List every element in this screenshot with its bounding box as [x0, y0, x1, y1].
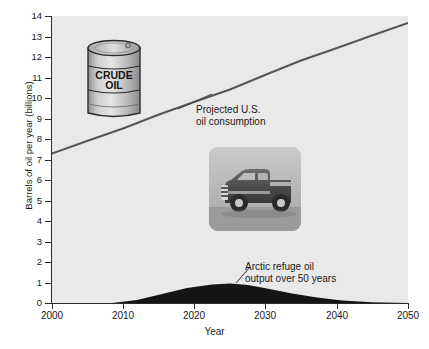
x-tick-2000: [52, 304, 53, 309]
consumption-annotation: Projected U.S. oil consumption: [196, 104, 265, 128]
x-tick-label-2000: 2000: [29, 311, 75, 321]
y-tick-0: [45, 303, 51, 304]
y-tick-2: [45, 262, 51, 263]
y-axis-title-wrap: Barrels of oil per year (billions): [0, 0, 18, 330]
x-axis-line: [51, 303, 409, 304]
y-tick-1: [45, 283, 51, 284]
plot-area: CRUDE OIL: [52, 16, 408, 303]
y-tick-14: [45, 16, 51, 17]
pickup-truck-icon: [209, 147, 301, 231]
y-tick-6: [45, 180, 51, 181]
consumption-annotation-line2: oil consumption: [196, 116, 265, 128]
x-tick-label-2010: 2010: [100, 311, 146, 321]
y-tick-9: [45, 119, 51, 120]
oil-drum-icon: CRUDE OIL: [84, 38, 144, 123]
y-axis-line: [51, 16, 52, 304]
y-tick-12: [45, 57, 51, 58]
oil-projection-chart: CRUDE OIL: [0, 0, 429, 349]
drum-label-line2: OIL: [105, 79, 123, 91]
x-tick-2050: [408, 304, 409, 309]
y-tick-3: [45, 242, 51, 243]
y-tick-4: [45, 221, 51, 222]
pickup-truck-photo: [209, 147, 301, 231]
arctic-refuge-area: [52, 284, 408, 304]
x-tick-2040: [337, 304, 338, 309]
consumption-annotation-line1: Projected U.S.: [196, 104, 265, 116]
x-tick-label-2050: 2050: [385, 311, 429, 321]
arctic-annotation-line1: Arctic refuge oil: [245, 261, 336, 273]
crude-oil-drum-image: CRUDE OIL: [84, 38, 144, 123]
y-tick-11: [45, 78, 51, 79]
x-axis-title: Year: [0, 326, 429, 337]
arctic-annotation-line2: output over 50 years: [245, 273, 336, 285]
y-tick-10: [45, 98, 51, 99]
y-axis-title: Barrels of oil per year (billions): [23, 56, 34, 236]
x-tick-2020: [194, 304, 195, 309]
arctic-annotation: Arctic refuge oil output over 50 years: [245, 261, 336, 285]
y-tick-13: [45, 37, 51, 38]
x-tick-2030: [265, 304, 266, 309]
x-tick-label-2030: 2030: [242, 311, 288, 321]
x-tick-2010: [123, 304, 124, 309]
y-tick-8: [45, 139, 51, 140]
y-tick-7: [45, 160, 51, 161]
x-tick-label-2040: 2040: [314, 311, 360, 321]
x-tick-label-2020: 2020: [171, 311, 217, 321]
y-tick-5: [45, 201, 51, 202]
